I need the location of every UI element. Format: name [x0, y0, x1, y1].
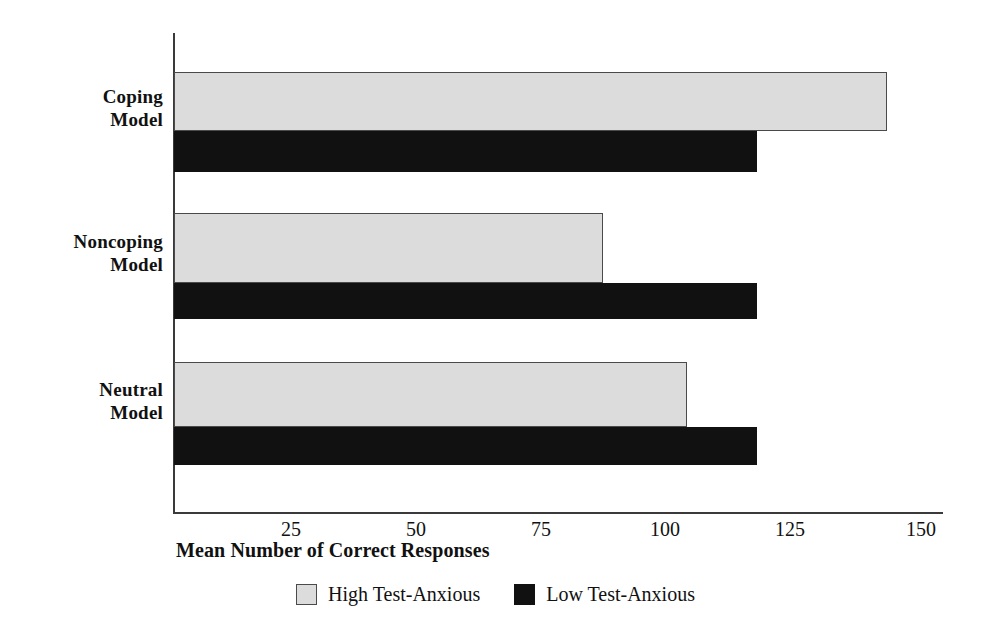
x-axis-line — [173, 512, 943, 514]
bar-high-test-anxious-coping-model — [174, 72, 887, 131]
category-label-line2: Model — [0, 401, 163, 424]
x-tick-label-100: 100 — [630, 516, 700, 542]
legend-label-high-test-anxious: High Test-Anxious — [328, 583, 480, 605]
legend-label-low-test-anxious: Low Test-Anxious — [546, 583, 695, 605]
x-axis-title: Mean Number of Correct Responses — [176, 539, 490, 562]
category-label-neutral-model: Neutral Model — [0, 378, 163, 424]
category-label-line1: Neutral — [0, 378, 163, 401]
black-swatch-icon — [514, 584, 535, 605]
light-gray-swatch-icon — [296, 584, 317, 605]
category-label-line1: Noncoping — [0, 230, 163, 253]
category-label-line2: Model — [0, 253, 163, 276]
bar-high-test-anxious-neutral-model — [174, 362, 687, 427]
category-label-coping-model: Coping Model — [0, 85, 163, 131]
category-label-line2: Model — [0, 108, 163, 131]
category-label-noncoping-model: Noncoping Model — [0, 230, 163, 276]
x-tick-label-150: 150 — [886, 516, 956, 542]
bar-high-test-anxious-noncoping-model — [174, 213, 603, 283]
legend-item-low-test-anxious: Low Test-Anxious — [514, 583, 695, 605]
bar-low-test-anxious-noncoping-model — [174, 283, 757, 319]
x-tick-label-125: 125 — [755, 516, 825, 542]
category-label-line1: Coping — [0, 85, 163, 108]
bar-chart: Coping Model Noncoping Model Neutral Mod… — [0, 0, 991, 644]
x-tick-label-75: 75 — [506, 516, 576, 542]
legend-item-high-test-anxious: High Test-Anxious — [296, 583, 480, 605]
legend: High Test-Anxious Low Test-Anxious — [0, 583, 991, 605]
bar-low-test-anxious-coping-model — [174, 131, 757, 172]
bar-low-test-anxious-neutral-model — [174, 427, 757, 465]
